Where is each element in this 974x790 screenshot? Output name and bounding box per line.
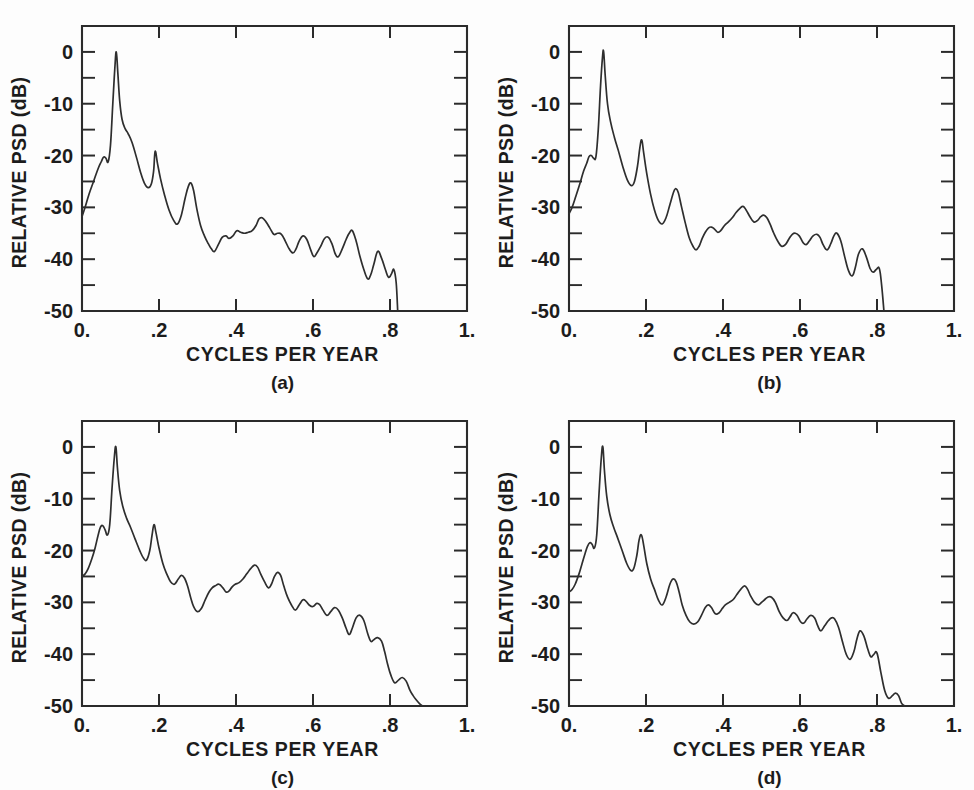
y-tick-label: -40 [531, 643, 560, 665]
x-tick-label: .4 [228, 319, 246, 341]
x-tick-label: .6 [792, 714, 809, 736]
y-tick-label: -20 [44, 145, 73, 167]
psd-chart-d: 0-10-20-30-40-500..2.4.6.81.CYCLES PER Y… [487, 395, 974, 790]
panel-caption: (b) [757, 372, 781, 393]
x-tick-label: .2 [151, 714, 168, 736]
y-tick-label: 0 [62, 436, 73, 458]
y-tick-label: 0 [62, 41, 73, 63]
x-tick-label: .2 [638, 319, 655, 341]
chart-panel-c: 0-10-20-30-40-500..2.4.6.81.CYCLES PER Y… [0, 395, 487, 790]
x-tick-label: 1. [946, 319, 963, 341]
psd-chart-b: 0-10-20-30-40-500..2.4.6.81.CYCLES PER Y… [487, 0, 974, 395]
y-tick-label: -10 [44, 93, 73, 115]
psd-curve [569, 50, 884, 311]
y-tick-label: -20 [44, 540, 73, 562]
x-tick-label: .6 [792, 319, 809, 341]
chart-panel-a: 0-10-20-30-40-500..2.4.6.81.CYCLES PER Y… [0, 0, 487, 395]
y-tick-label: -20 [531, 145, 560, 167]
axis-frame [82, 421, 467, 706]
x-tick-label: .8 [382, 714, 399, 736]
y-tick-label: -40 [44, 248, 73, 270]
axis-frame [569, 26, 954, 311]
y-tick-label: -40 [531, 248, 560, 270]
x-tick-label: .2 [638, 714, 655, 736]
y-axis-title: RELATIVE PSD (dB) [8, 472, 30, 664]
y-tick-label: -10 [531, 93, 560, 115]
x-axis-title: CYCLES PER YEAR [186, 738, 379, 760]
x-tick-label: .8 [869, 714, 886, 736]
figure-root: 0-10-20-30-40-500..2.4.6.81.CYCLES PER Y… [0, 0, 974, 790]
x-tick-label: 1. [459, 319, 476, 341]
y-tick-label: 0 [549, 41, 560, 63]
x-tick-label: 1. [946, 714, 963, 736]
psd-chart-c: 0-10-20-30-40-500..2.4.6.81.CYCLES PER Y… [0, 395, 487, 790]
x-tick-label: .8 [869, 319, 886, 341]
y-tick-label: -30 [44, 591, 73, 613]
x-tick-label: 1. [459, 714, 476, 736]
y-axis-title: RELATIVE PSD (dB) [495, 472, 517, 664]
y-axis-title: RELATIVE PSD (dB) [495, 77, 517, 269]
x-tick-label: .4 [228, 714, 246, 736]
y-tick-label: -30 [531, 196, 560, 218]
psd-curve [569, 446, 905, 706]
y-axis-title: RELATIVE PSD (dB) [8, 77, 30, 269]
x-axis-title: CYCLES PER YEAR [673, 343, 866, 365]
x-tick-label: 0. [561, 319, 578, 341]
x-tick-label: .8 [382, 319, 399, 341]
panel-caption: (d) [757, 767, 781, 788]
y-tick-label: -30 [44, 196, 73, 218]
y-tick-label: -30 [531, 591, 560, 613]
y-tick-label: -50 [44, 695, 73, 717]
y-tick-label: -10 [531, 488, 560, 510]
panel-caption: (a) [271, 372, 294, 393]
x-tick-label: 0. [74, 319, 91, 341]
x-tick-label: .6 [305, 714, 322, 736]
y-tick-label: -20 [531, 540, 560, 562]
x-tick-label: .4 [715, 319, 733, 341]
psd-curve [82, 446, 422, 706]
y-tick-label: -50 [531, 695, 560, 717]
x-tick-label: .6 [305, 319, 322, 341]
x-tick-label: .4 [715, 714, 733, 736]
y-tick-label: -10 [44, 488, 73, 510]
psd-curve [82, 52, 398, 311]
x-tick-label: 0. [74, 714, 91, 736]
y-tick-label: 0 [549, 436, 560, 458]
y-tick-label: -40 [44, 643, 73, 665]
y-tick-label: -50 [531, 300, 560, 322]
psd-chart-a: 0-10-20-30-40-500..2.4.6.81.CYCLES PER Y… [0, 0, 487, 395]
chart-panel-b: 0-10-20-30-40-500..2.4.6.81.CYCLES PER Y… [487, 0, 974, 395]
chart-panel-d: 0-10-20-30-40-500..2.4.6.81.CYCLES PER Y… [487, 395, 974, 790]
x-tick-label: .2 [151, 319, 168, 341]
y-tick-label: -50 [44, 300, 73, 322]
panel-caption: (c) [271, 767, 294, 788]
x-axis-title: CYCLES PER YEAR [186, 343, 379, 365]
x-tick-label: 0. [561, 714, 578, 736]
x-axis-title: CYCLES PER YEAR [673, 738, 866, 760]
